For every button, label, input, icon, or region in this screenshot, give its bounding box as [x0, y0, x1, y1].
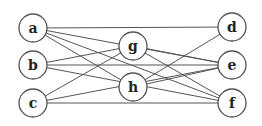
node-label: b [28, 57, 38, 73]
node-b: b [19, 51, 47, 79]
node-label: h [128, 79, 138, 95]
edge-a-d [33, 27, 232, 28]
node-a: a [19, 14, 47, 42]
edge-g-e [133, 46, 232, 65]
node-label: a [28, 20, 37, 36]
graph-diagram: abcghdef [0, 0, 262, 126]
node-d: d [218, 13, 246, 41]
node-label: f [229, 95, 236, 111]
edge-b-g [33, 46, 133, 65]
node-f: f [218, 89, 246, 117]
node-e: e [218, 51, 246, 79]
edge-c-g [33, 46, 133, 103]
node-label: g [128, 38, 138, 54]
edge-h-e [133, 65, 232, 87]
node-g: g [119, 32, 147, 60]
node-label: e [228, 57, 237, 73]
edge-h-d [133, 27, 232, 87]
node-c: c [19, 89, 47, 117]
node-label: c [29, 95, 38, 111]
edge-g-f [133, 46, 232, 103]
node-label: d [227, 19, 237, 35]
node-h: h [119, 73, 147, 101]
graph-svg: abcghdef [0, 0, 262, 126]
